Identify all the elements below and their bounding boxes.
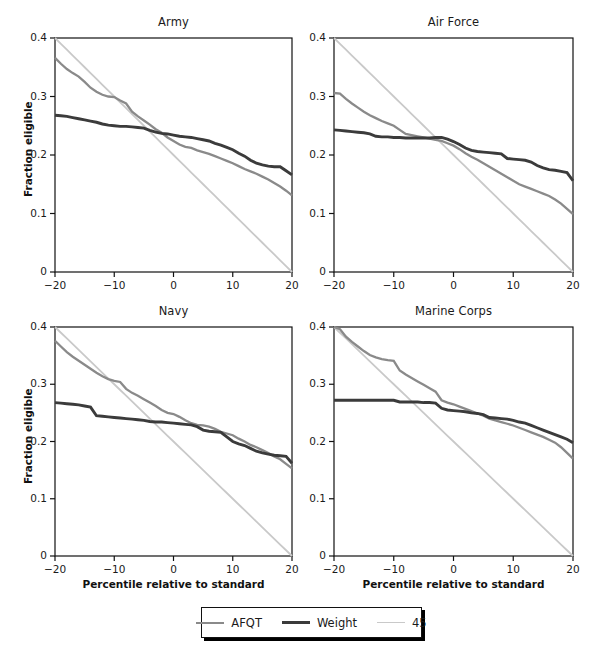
plot-frame [55, 327, 292, 556]
y-axis-label: Fraction eligible [22, 101, 34, 197]
legend-line-swatch [196, 622, 224, 624]
panel-title: Army [55, 15, 292, 29]
legend-label: AFQT [231, 616, 262, 630]
legend-line-swatch [377, 622, 405, 623]
x-tick-label: 0 [434, 279, 474, 291]
y-tick-label: 0.4 [286, 320, 326, 332]
y-axis-label: Fraction eligible [22, 388, 34, 484]
y-tick-label: 0.2 [286, 435, 326, 447]
x-tick-label: −10 [374, 279, 414, 291]
series-line-45 [334, 327, 573, 556]
legend-label: Weight [317, 616, 357, 630]
y-tick-label: 0.3 [286, 90, 326, 102]
series-line-afqt [334, 93, 573, 214]
chart-legend: AFQTWeight45 [201, 607, 422, 638]
panel-title: Marine Corps [334, 304, 573, 318]
x-tick-label: −10 [94, 279, 134, 291]
y-tick-label: 0.1 [286, 207, 326, 219]
plot-frame [334, 327, 573, 556]
x-tick-label: 20 [553, 563, 593, 575]
x-tick-label: −10 [374, 563, 414, 575]
legend-line-swatch [282, 621, 310, 624]
x-tick-label: 10 [493, 563, 533, 575]
legend-item-weight[interactable]: Weight [282, 616, 357, 630]
figure-root: Army00.10.20.30.4−20−1001020Fraction eli… [0, 0, 595, 656]
x-tick-label: 0 [154, 279, 194, 291]
x-axis-label: Percentile relative to standard [334, 578, 573, 590]
series-line-weight [334, 400, 573, 442]
series-line-afqt [334, 327, 573, 459]
x-tick-label: 0 [154, 563, 194, 575]
plot-frame [55, 38, 292, 272]
y-tick-label: 0.1 [7, 492, 47, 504]
x-tick-label: 10 [213, 279, 253, 291]
series-line-afqt [55, 341, 292, 469]
legend-label: 45 [412, 616, 427, 630]
legend-item-afqt[interactable]: AFQT [196, 616, 262, 630]
x-tick-label: 10 [213, 563, 253, 575]
y-tick-label: 0.2 [286, 148, 326, 160]
x-tick-label: −10 [94, 563, 134, 575]
y-tick-label: 0.3 [286, 377, 326, 389]
series-line-afqt [55, 58, 292, 195]
y-tick-label: 0 [286, 549, 326, 561]
y-tick-label: 0.4 [7, 31, 47, 43]
panel-title: Navy [55, 304, 292, 318]
series-line-45 [55, 38, 292, 272]
y-tick-label: 0 [7, 265, 47, 277]
x-axis-label: Percentile relative to standard [55, 578, 292, 590]
y-tick-label: 0.4 [286, 31, 326, 43]
x-tick-label: −20 [314, 563, 354, 575]
x-tick-label: 20 [553, 279, 593, 291]
legend-item-45[interactable]: 45 [377, 616, 427, 630]
series-line-45 [334, 38, 573, 272]
y-tick-label: 0 [7, 549, 47, 561]
y-tick-label: 0.3 [7, 90, 47, 102]
series-line-weight [55, 403, 292, 464]
y-tick-label: 0.1 [286, 492, 326, 504]
y-tick-label: 0.4 [7, 320, 47, 332]
y-tick-label: 0.1 [7, 207, 47, 219]
x-tick-label: 10 [493, 279, 533, 291]
x-tick-label: −20 [35, 279, 75, 291]
x-tick-label: −20 [35, 563, 75, 575]
x-tick-label: 0 [434, 563, 474, 575]
series-line-45 [55, 327, 292, 556]
series-line-weight [55, 115, 292, 175]
y-tick-label: 0 [286, 265, 326, 277]
x-tick-label: −20 [314, 279, 354, 291]
panel-title: Air Force [334, 15, 573, 29]
plot-frame [334, 38, 573, 272]
x-tick-label: 20 [272, 279, 312, 291]
series-line-weight [334, 130, 573, 181]
x-tick-label: 20 [272, 563, 312, 575]
